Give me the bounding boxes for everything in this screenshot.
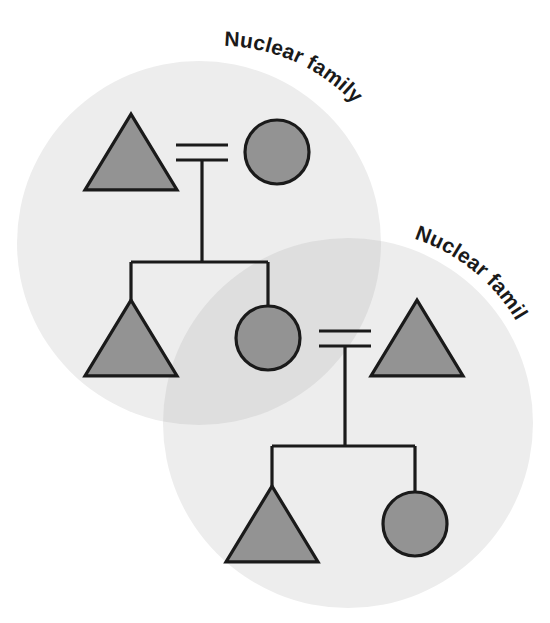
kinship-diagram: Nuclear family Nuclear family bbox=[0, 0, 550, 623]
female-symbol-gen2-daughter[interactable] bbox=[236, 306, 300, 370]
female-symbol-gen1-mother[interactable] bbox=[245, 120, 309, 184]
female-symbol-gen3-daughter[interactable] bbox=[383, 492, 447, 556]
kinship-diagram-canvas: Nuclear family Nuclear family bbox=[0, 0, 550, 623]
person-symbols bbox=[85, 114, 463, 562]
